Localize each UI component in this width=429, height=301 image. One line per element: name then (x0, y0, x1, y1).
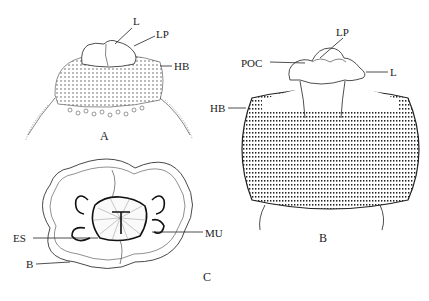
panel-label-b: B (319, 231, 327, 245)
panel-a-base-cells (68, 106, 144, 117)
callout-c-mu: MU (205, 227, 223, 239)
callout-b-l: L (390, 66, 397, 78)
panel-c: ES MU B C (13, 159, 223, 284)
callout-a-hb: HB (174, 60, 189, 72)
panel-a-lips (82, 40, 136, 67)
panel-a-hair-right (160, 98, 190, 135)
callout-a-lp: LP (156, 28, 169, 40)
callout-b-hb: HB (210, 102, 225, 114)
callout-a-l: L (133, 15, 140, 27)
callout-c-es: ES (13, 232, 26, 244)
figure-canvas: L LP HB A LP POC L HB B (0, 0, 429, 301)
panel-label-c: C (203, 270, 211, 284)
panel-b: LP POC L HB B (210, 26, 429, 245)
panel-a-hair-left (28, 98, 55, 135)
callout-line-c-b (36, 262, 70, 264)
callout-c-b: B (26, 258, 33, 270)
panel-a: L LP HB A (26, 15, 192, 143)
callout-line-a-l (115, 28, 132, 44)
panel-label-a: A (100, 129, 109, 143)
callout-b-poc: POC (241, 57, 262, 69)
callout-line-a-lp (134, 36, 155, 46)
callout-b-lp: LP (336, 26, 349, 38)
panel-b-lips (289, 48, 365, 84)
